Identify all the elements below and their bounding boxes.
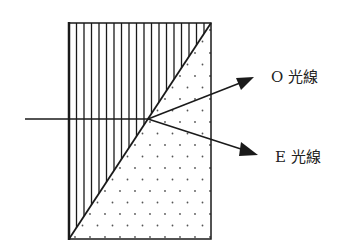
prism-diagram (0, 0, 360, 246)
e-ray (148, 119, 244, 150)
dot-pattern (74, 29, 211, 238)
prism-interface (69, 23, 211, 239)
e-ray-arrowhead (239, 142, 258, 156)
o-ray-arrowhead (236, 77, 254, 90)
e-ray-label: E 光線 (275, 145, 321, 166)
o-ray (148, 83, 240, 119)
o-ray-label: O 光線 (271, 65, 318, 86)
